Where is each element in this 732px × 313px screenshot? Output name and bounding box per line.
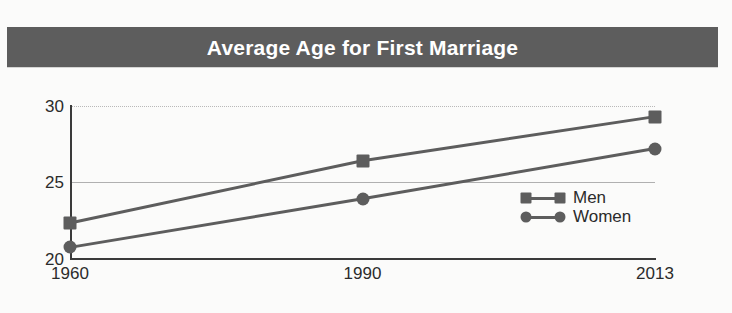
legend-label-women: Women [573,208,631,225]
legend-item-women: Women [520,207,650,226]
legend-item-men: Men [520,188,650,207]
data-point-women-1960 [64,241,77,254]
data-point-men-1990 [356,154,369,167]
series-markers [0,0,732,313]
data-point-men-1960 [64,217,77,230]
plot-container: 30 25 20 1960 1990 2013 [0,0,732,313]
legend-label-men: Men [573,189,606,206]
chart-figure: Average Age for First Marriage 30 25 20 … [0,0,732,313]
square-marker-icon [520,191,566,205]
data-point-women-2013 [649,142,662,155]
circle-marker-icon [520,210,566,224]
data-point-men-2013 [649,110,662,123]
data-point-women-1990 [356,192,369,205]
chart-legend: Men Women [520,188,650,226]
